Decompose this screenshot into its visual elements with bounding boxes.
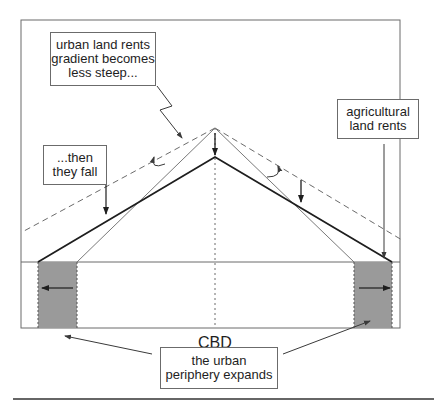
fall-label-line-1: ...then — [44, 151, 106, 165]
fall-label-line-2: they fall — [44, 165, 106, 179]
periphery-leader-right — [283, 321, 370, 354]
periphery-label-box: the urban periphery expands — [160, 347, 278, 389]
agri-label-line-1: agricultural — [338, 105, 418, 119]
gradient-label-line-2: gradient becomes — [51, 52, 155, 66]
gradient-label-box: urban land rents gradient becomes less s… — [50, 32, 156, 86]
agricultural-label-box: agricultural land rents — [337, 99, 419, 139]
dashed-gradient-right — [215, 128, 402, 240]
agri-label-line-2: land rents — [338, 119, 418, 133]
periphery-label-line-2: periphery expands — [161, 368, 277, 382]
gradient-label-line-3: less steep... — [51, 66, 155, 80]
gradient-leader — [157, 86, 182, 138]
periphery-label-line-1: the urban — [161, 354, 277, 368]
periphery-leader-left — [65, 336, 152, 354]
fall-label-box: ...then they fall — [43, 145, 107, 185]
left-periphery-band — [38, 262, 77, 328]
right-angle-arc — [267, 166, 279, 177]
right-periphery-band — [354, 262, 392, 328]
gradient-label-line-1: urban land rents — [51, 38, 155, 52]
